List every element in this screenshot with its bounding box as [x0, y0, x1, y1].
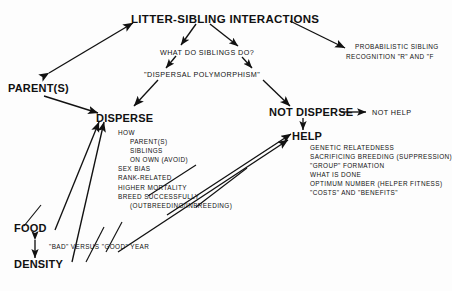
list-item: PARENT(S) [118, 137, 232, 146]
node-question: WHAT DO SIBLINGS DO? [160, 48, 254, 57]
edge-parents-disperse [44, 96, 98, 113]
node-probabilistic-line2: RECOGNITION "R" AND "F [346, 53, 434, 60]
list-item: HOW [118, 128, 232, 137]
node-not-disperse: NOT DISPERSE [269, 106, 353, 118]
disperse-attribute-list: HOW PARENT(S) SIBLINGS ON OWN (AVOID) SE… [118, 128, 232, 210]
edge-title-question-left [181, 24, 196, 45]
node-probabilistic-line1: PROBABILISTIC SIBLING [355, 43, 439, 50]
edge-polymorphism-notdisperse [263, 80, 290, 106]
node-disperse: DISPERSE [96, 112, 153, 124]
edge-density-disperse [72, 122, 104, 262]
node-not-help: NOT HELP [372, 108, 411, 117]
list-item: (OUTBREEDING/INBREEDING) [118, 201, 232, 210]
list-item: "GROUP" FORMATION [310, 161, 452, 170]
edge-parents-title [49, 23, 133, 73]
node-parents: PARENT(S) [8, 82, 69, 94]
node-density: DENSITY [14, 258, 63, 270]
list-item: OPTIMUM NUMBER (HELPER FITNESS) [310, 179, 452, 188]
list-item: WHAT IS DONE [310, 170, 452, 179]
help-attribute-list: GENETIC RELATEDNESS SACRIFICING BREEDING… [310, 143, 452, 198]
edge-title-question-right [210, 24, 238, 46]
node-food: FOOD [14, 222, 47, 234]
edge-polymorphism-disperse [134, 80, 158, 106]
list-item: SEX BIAS [118, 164, 232, 173]
list-item: GENETIC RELATEDNESS [310, 143, 452, 152]
node-dispersal-polymorphism: "DISPERSAL POLYMORPHISM" [144, 70, 260, 79]
list-item: ON OWN (AVOID) [118, 155, 232, 164]
edge-title-probabilistic [290, 21, 345, 48]
list-item: HIGHER MORTALITY [118, 183, 232, 192]
edge-question-polymorphism [166, 56, 176, 68]
edge-question-polymorphism-2 [242, 57, 252, 68]
list-item: SACRIFICING BREEDING (SUPPRESSION) [310, 152, 452, 161]
list-item: "COSTS" AND "BENEFITS" [310, 188, 452, 197]
node-year-quality: "BAD" VERSUS "GOOD" YEAR [49, 243, 149, 250]
list-item: RANK-RELATED [118, 173, 232, 182]
node-title: LITTER-SIBLING INTERACTIONS [131, 13, 319, 25]
list-item: SIBLINGS [118, 146, 232, 155]
edge-food-disperse [55, 122, 99, 230]
node-help: HELP [292, 130, 322, 142]
list-item: BREED SUCCESSFULLY [118, 192, 232, 201]
